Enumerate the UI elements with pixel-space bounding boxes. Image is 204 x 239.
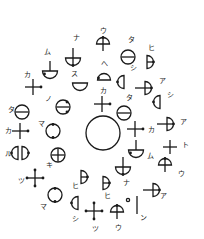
glyph-dome-cross: ウ	[111, 204, 124, 232]
glyph-circle-bar-dots: ノ	[45, 95, 70, 114]
glyph-double-d: ル	[5, 147, 30, 160]
glyph-dome-cross: ウ	[97, 27, 110, 51]
glyph-label: シ	[72, 215, 79, 223]
glyph-d-right-dot: ヒ	[103, 177, 111, 201]
glyph-label: ヒ	[104, 192, 111, 200]
glyph-bowl-cross-dot: ム	[129, 140, 155, 160]
glyph-circle-bar: タ	[121, 35, 135, 64]
glyph-label: へ	[101, 60, 108, 68]
glyph-circle-dots: マ	[38, 120, 60, 139]
glyph-label: カ	[24, 71, 31, 79]
glyph-circle-bar: タ	[8, 105, 29, 119]
glyph-bowl: ス	[71, 70, 88, 91]
diagram-svg: ウタヒナムカスへシアシノタカタカマカアトルキムウツヒナヒアマシツウン	[0, 0, 204, 239]
glyph-d-cross-right: ア	[143, 184, 167, 201]
glyph-cross-dot: カ	[127, 121, 155, 137]
glyph-label: ル	[5, 150, 12, 158]
glyph-layer: ウタヒナムカスへシアシノタカタカマカアトルキムウツヒナヒアマシツウン	[5, 27, 189, 233]
center-circle	[86, 116, 120, 150]
glyph-d-cross-right: ア	[135, 77, 166, 95]
glyph-label: マ	[40, 203, 47, 211]
glyph-label: ム	[44, 48, 51, 56]
glyph-label: ノ	[45, 95, 52, 103]
glyph-d-right-dot: ヒ	[72, 171, 89, 191]
glyph-label: ウ	[100, 27, 107, 35]
glyph-label: ウ	[178, 170, 185, 178]
glyph-bowl-cross: ナ	[66, 34, 81, 67]
glyph-bowl-cross: ナ	[116, 157, 131, 187]
glyph-label: ナ	[73, 34, 80, 42]
glyph-dome-dot: へ	[97, 60, 110, 80]
glyph-d-right-dot: ヒ	[147, 44, 155, 69]
glyph-cross-dot: カ	[5, 123, 29, 139]
glyph-label: カ	[148, 126, 155, 134]
glyph-label: ナ	[123, 179, 130, 187]
glyph-d-cross-right: ア	[157, 118, 187, 131]
glyph-label: シ	[167, 91, 174, 99]
glyph-label: ツ	[92, 225, 99, 233]
glyph-cross: ト	[163, 140, 189, 154]
glyph-label: タ	[8, 105, 15, 114]
glyph-vline: ン	[137, 196, 147, 222]
glyph-label: ヒ	[148, 44, 155, 52]
glyph-circle-bar: タ	[117, 93, 133, 120]
glyph-d-left-dot: シ	[70, 197, 79, 224]
glyph-bowl-cross-dot: ム	[43, 48, 58, 79]
glyph-label: ス	[71, 70, 78, 78]
glyph-label: タ	[126, 93, 133, 102]
glyph-label: ア	[160, 192, 167, 200]
glyph-label: キ	[46, 161, 53, 169]
glyph-cross-dot: カ	[24, 71, 42, 95]
glyph-label: ム	[147, 152, 154, 160]
glyph-label: カ	[100, 87, 107, 95]
glyph-small-circle	[126, 198, 129, 201]
glyph-label: ウ	[115, 224, 122, 232]
glyph-circle-dots: マ	[40, 187, 62, 211]
glyph-label: タ	[128, 35, 135, 44]
glyph-label: カ	[5, 127, 12, 135]
glyph-label: ア	[180, 118, 187, 126]
glyph-circle-cross: キ	[46, 148, 65, 169]
glyph-cross-dots: ツ	[85, 202, 104, 233]
glyph-label: ン	[140, 214, 147, 222]
glyph-label: ヒ	[72, 182, 79, 190]
glyph-cross-dot: カ	[94, 87, 111, 112]
glyph-label: ツ	[18, 177, 25, 185]
glyph-label: ト	[182, 141, 189, 149]
glyph-d-left-dot: シ	[152, 91, 174, 109]
symbol-diagram: ウタヒナムカスへシアシノタカタカマカアトルキムウツヒナヒアマシツウン	[0, 0, 204, 239]
glyph-label: ア	[159, 77, 166, 85]
glyph-label: シ	[130, 64, 137, 72]
glyph-label: マ	[38, 120, 45, 128]
glyph-d-left-dot: シ	[116, 64, 137, 89]
glyph-cross-dots: ツ	[18, 169, 44, 188]
glyph-dome-cross: ウ	[159, 157, 186, 178]
